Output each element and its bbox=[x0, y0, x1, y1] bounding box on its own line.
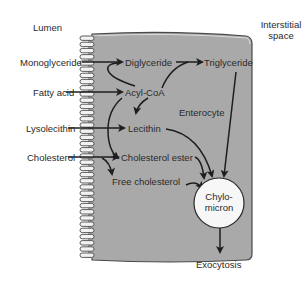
label-interstitial-line2: space bbox=[254, 30, 308, 41]
label-free-cholesterol: Free cholesterol bbox=[112, 176, 180, 187]
diagram-canvas bbox=[0, 0, 308, 285]
label-monoglyceride: Monoglyceride bbox=[20, 57, 82, 68]
label-cholesterol: Cholesterol bbox=[27, 152, 75, 163]
label-acyl-coa: Acyl-CoA bbox=[125, 87, 165, 98]
label-lumen: Lumen bbox=[33, 22, 62, 33]
label-exocytosis: Exocytosis bbox=[196, 259, 241, 270]
label-diglyceride: Diglyceride bbox=[125, 57, 172, 68]
label-lysolecithin: Lysolecithin bbox=[26, 123, 75, 134]
label-fatty-acid: Fatty acid bbox=[33, 87, 74, 98]
label-enterocyte: Enterocyte bbox=[179, 107, 224, 118]
label-chylomicron-line1: Chylo- bbox=[194, 191, 244, 202]
label-chylomicron-line2: micron bbox=[194, 202, 244, 213]
label-cholesterol-ester: Cholesterol ester bbox=[121, 152, 193, 163]
label-triglyceride: Triglyceride bbox=[204, 57, 253, 68]
label-chylomicron: Chylo- micron bbox=[194, 191, 244, 213]
label-interstitial-line1: Interstitial bbox=[254, 19, 308, 30]
label-lecithin: Lecithin bbox=[128, 123, 161, 134]
label-interstitial-space: Interstitial space bbox=[254, 19, 308, 41]
